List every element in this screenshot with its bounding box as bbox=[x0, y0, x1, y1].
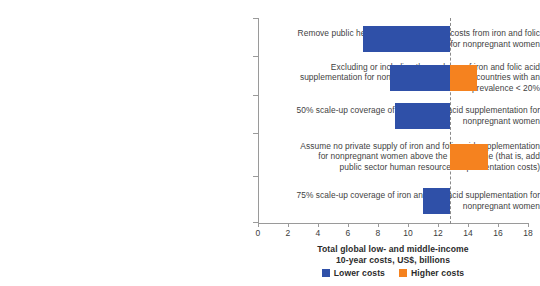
bar-row bbox=[0, 65, 540, 91]
x-tick-label-8: 8 bbox=[366, 228, 390, 238]
bar-segment-lower-1[interactable] bbox=[390, 65, 450, 91]
x-tick-label-14: 14 bbox=[456, 228, 480, 238]
legend-label-lower-costs: Lower costs bbox=[334, 268, 385, 278]
x-axis-title: Total global low- and middle-income 10-y… bbox=[258, 244, 528, 266]
bar-row bbox=[0, 26, 540, 52]
x-tick-label-10: 10 bbox=[396, 228, 420, 238]
x-axis-title-line1: Total global low- and middle-income bbox=[258, 244, 528, 255]
x-tick-18 bbox=[528, 223, 529, 227]
category-tick-2 bbox=[253, 95, 258, 96]
cropped-title-remnant bbox=[0, 0, 540, 6]
legend-label-higher-costs: Higher costs bbox=[411, 268, 464, 278]
x-tick-label-2: 2 bbox=[276, 228, 300, 238]
x-tick-12 bbox=[438, 223, 439, 227]
bar-segment-lower-4[interactable] bbox=[423, 188, 450, 214]
legend-item-lower-costs: Lower costs bbox=[322, 268, 385, 278]
legend-swatch-higher-costs bbox=[399, 269, 407, 277]
legend-swatch-lower-costs bbox=[322, 269, 330, 277]
bar-segment-lower-2[interactable] bbox=[395, 103, 451, 129]
x-tick-label-16: 16 bbox=[486, 228, 510, 238]
x-tick-label-12: 12 bbox=[426, 228, 450, 238]
bar-segment-lower-0[interactable] bbox=[363, 26, 450, 52]
x-tick-6 bbox=[348, 223, 349, 227]
x-tick-10 bbox=[408, 223, 409, 227]
category-tick-0 bbox=[253, 18, 258, 19]
x-tick-label-18: 18 bbox=[516, 228, 540, 238]
x-tick-0 bbox=[258, 223, 259, 227]
x-tick-label-4: 4 bbox=[306, 228, 330, 238]
x-tick-label-6: 6 bbox=[336, 228, 360, 238]
category-tick-1 bbox=[253, 56, 258, 57]
x-tick-8 bbox=[378, 223, 379, 227]
x-tick-16 bbox=[498, 223, 499, 227]
x-tick-2 bbox=[288, 223, 289, 227]
x-axis-line bbox=[258, 223, 528, 224]
legend-item-higher-costs: Higher costs bbox=[399, 268, 464, 278]
tornado-chart: Remove public health system personnel co… bbox=[0, 0, 540, 286]
bar-segment-higher-1[interactable] bbox=[450, 65, 477, 91]
bar-row bbox=[0, 144, 540, 170]
category-tick-3 bbox=[253, 133, 258, 134]
x-tick-label-0: 0 bbox=[246, 228, 270, 238]
bar-segment-higher-3[interactable] bbox=[450, 144, 488, 170]
x-tick-4 bbox=[318, 223, 319, 227]
chart-legend: Lower costs Higher costs bbox=[258, 268, 528, 278]
x-tick-14 bbox=[468, 223, 469, 227]
x-axis-title-line2: 10-year costs, US$, billions bbox=[258, 255, 528, 266]
bar-row bbox=[0, 103, 540, 129]
category-tick-4 bbox=[253, 176, 258, 177]
bar-row bbox=[0, 188, 540, 214]
